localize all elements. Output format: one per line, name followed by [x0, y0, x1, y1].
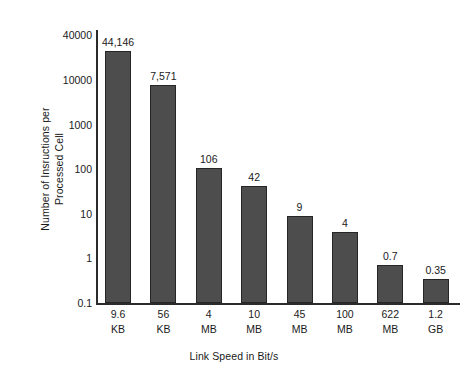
x-axis-tick-label: 622MB — [377, 307, 403, 337]
y-axis-tick-label: 1 — [86, 253, 92, 264]
x-axis-tick-labels: 9.6KB56KB4MB10MB45MB100MB622MB1.2GB — [97, 307, 460, 347]
x-axis-tick-number: 1.2 — [428, 308, 443, 320]
bar-group: 7,571 — [150, 30, 176, 303]
bar-value-label: 4 — [342, 218, 348, 229]
x-axis-tick-number: 56 — [158, 308, 170, 320]
bar[interactable] — [332, 232, 358, 303]
bar-value-label: 9 — [297, 202, 303, 213]
y-axis-tick-label: 10000 — [63, 74, 92, 85]
bar-value-label: 0.35 — [425, 265, 445, 276]
x-axis-tick-unit: MB — [332, 322, 358, 337]
plot-area: 44,1467,57110642940.70.35 — [97, 30, 460, 303]
x-axis-tick-label: 56KB — [150, 307, 176, 337]
x-axis-tick-label: 100MB — [332, 307, 358, 337]
y-axis-tick-label: 10 — [80, 208, 92, 219]
bar[interactable] — [377, 265, 403, 303]
x-axis-tick-label: 10MB — [241, 307, 267, 337]
x-axis-tick-unit: GB — [423, 322, 449, 337]
bar-value-label: 7,571 — [150, 71, 176, 82]
x-axis-tick-unit: MB — [377, 322, 403, 337]
x-axis-tick-unit: KB — [105, 322, 131, 337]
x-axis-tick-number: 9.6 — [111, 308, 126, 320]
bar[interactable] — [196, 168, 222, 303]
x-axis-tick-unit: MB — [196, 322, 222, 337]
x-axis-title: Link Speed in Bit/s — [0, 350, 468, 362]
x-axis-line — [96, 303, 460, 305]
bar-group: 0.7 — [377, 30, 403, 303]
bar[interactable] — [150, 85, 176, 303]
x-axis-tick-number: 4 — [206, 308, 212, 320]
bar-value-label: 44,146 — [102, 37, 134, 48]
bar-group: 9 — [287, 30, 313, 303]
bar-group: 4 — [332, 30, 358, 303]
x-axis-tick-label: 4MB — [196, 307, 222, 337]
bar[interactable] — [423, 279, 449, 303]
bar-group: 42 — [241, 30, 267, 303]
bar-value-label: 42 — [248, 172, 260, 183]
x-axis-tick-label: 1.2GB — [423, 307, 449, 337]
bar-value-label: 106 — [200, 154, 218, 165]
x-axis-tick-unit: MB — [287, 322, 313, 337]
x-axis-tick-unit: KB — [150, 322, 176, 337]
x-axis-tick-number: 622 — [382, 308, 400, 320]
x-axis-tick-number: 45 — [294, 308, 306, 320]
x-axis-tick-number: 100 — [336, 308, 354, 320]
x-axis-tick-unit: MB — [241, 322, 267, 337]
y-axis-tick-label: 1000 — [69, 119, 92, 130]
bar-value-label: 0.7 — [383, 251, 398, 262]
y-axis-tick-labels: 400001000010001001010.1 — [44, 30, 92, 305]
bar-group: 0.35 — [423, 30, 449, 303]
bar[interactable] — [241, 186, 267, 303]
y-axis-tick-label: 0.1 — [77, 298, 92, 309]
bar[interactable] — [287, 216, 313, 303]
x-axis-tick-number: 10 — [248, 308, 260, 320]
x-axis-tick-label: 45MB — [287, 307, 313, 337]
bar-chart: Number of Insructions per Processed Cell… — [0, 0, 468, 373]
bar[interactable] — [105, 51, 131, 303]
x-axis-tick-label: 9.6KB — [105, 307, 131, 337]
y-axis-tick-label: 40000 — [63, 30, 92, 41]
bar-group: 106 — [196, 30, 222, 303]
bar-group: 44,146 — [105, 30, 131, 303]
y-axis-tick-label: 100 — [74, 164, 92, 175]
